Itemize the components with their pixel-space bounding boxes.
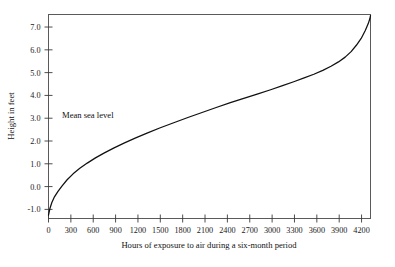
y-tick-label: 7.0 [30,23,40,32]
x-tick-label: 3600 [309,226,325,235]
x-axis-title: Hours of exposure to air during a six-mo… [121,240,297,250]
x-tick-label: 3300 [286,226,302,235]
y-tick-label: 0.0 [30,183,40,192]
y-tick-label: 2.0 [30,137,40,146]
x-tick-label: 4200 [353,226,369,235]
x-tick-label: 600 [87,226,99,235]
x-tick-label: 1500 [152,226,168,235]
chart-figure: -1.00.01.02.03.04.05.06.07.0 03006009001… [0,0,395,267]
y-tick-label: 5.0 [30,69,40,78]
x-tick-label: 1200 [130,226,146,235]
x-tick-label-group: 0300600900120015001800210024002700300033… [46,226,369,235]
x-tick-label: 1800 [174,226,190,235]
y-tick-label: 6.0 [30,46,40,55]
y-tick-label-group: -1.00.01.02.03.04.05.06.07.0 [28,23,41,214]
annotation-mean-sea-level: Mean sea level [62,110,114,120]
y-axis-title: Height in feet [6,92,16,140]
x-tick-label: 0 [46,226,50,235]
x-tick-label: 900 [109,226,121,235]
y-tick-label: -1.0 [28,205,41,214]
x-tick-label: 3900 [331,226,347,235]
line-chart: -1.00.01.02.03.04.05.06.07.0 03006009001… [0,0,395,267]
x-tick-label: 3000 [264,226,280,235]
x-tick-label: 300 [65,226,77,235]
x-tick-label: 2100 [197,226,213,235]
x-tick-label: 2400 [219,226,235,235]
x-tick-label: 2700 [242,226,258,235]
y-tick-label: 4.0 [30,91,40,100]
y-tick-label: 3.0 [30,114,40,123]
y-tick-label: 1.0 [30,160,40,169]
